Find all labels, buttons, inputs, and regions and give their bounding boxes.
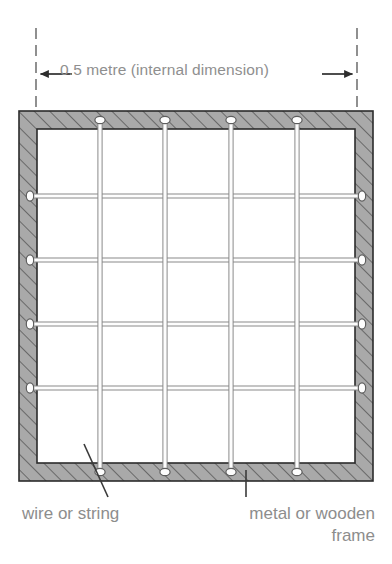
frame-inner-edge — [37, 129, 355, 463]
nail-head-icon — [292, 116, 302, 123]
nail-head-icon — [95, 116, 105, 123]
nail-head-icon — [358, 191, 365, 201]
nail-head-icon — [226, 116, 236, 123]
diagram-canvas: 0.5 metre (internal dimension) wire or s… — [0, 0, 392, 564]
dimension-label: 0.5 metre (internal dimension) — [60, 61, 269, 79]
nail-head-icon — [358, 319, 365, 329]
callout-label-wire-or-string: wire or string — [22, 503, 119, 525]
frame-body — [19, 111, 373, 481]
wire-grid — [26, 116, 365, 475]
nail-head-icon — [358, 383, 365, 393]
callout-frame-line-1: metal or wooden — [211, 503, 375, 525]
quadrat-diagram-svg — [0, 0, 392, 564]
nail-head-icon — [226, 468, 236, 475]
nail-head-icon — [358, 255, 365, 265]
nail-head-icon — [160, 116, 170, 123]
nail-head-icon — [160, 468, 170, 475]
nail-head-icon — [26, 191, 33, 201]
frame-hatched-band — [19, 111, 373, 481]
nail-head-icon — [292, 468, 302, 475]
nail-head-icon — [26, 255, 33, 265]
nail-head-icon — [26, 319, 33, 329]
callout-label-metal-or-wooden-frame: metal or wooden frame — [211, 503, 375, 548]
vertical-wires — [100, 120, 297, 472]
frame-outer-edge — [19, 111, 373, 481]
callout-frame-line-2: frame — [211, 525, 375, 547]
horizontal-wires — [30, 196, 362, 388]
nail-head-icon — [26, 383, 33, 393]
